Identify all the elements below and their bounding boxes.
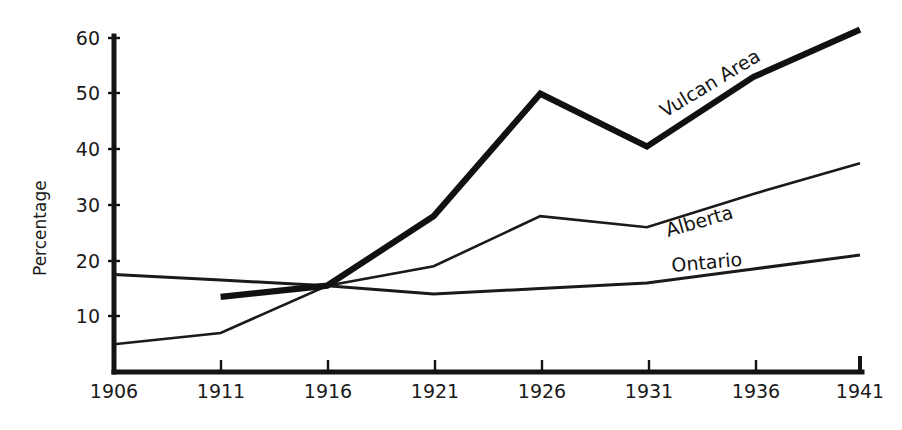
x-tick-label-1936: 1936 — [732, 380, 780, 402]
y-tick-label-40: 40 — [76, 138, 100, 160]
y-axis-title: Percentage — [30, 180, 50, 276]
y-tick-label-50: 50 — [76, 82, 100, 104]
x-tick-label-1941: 1941 — [836, 380, 884, 402]
series-label-alberta: Alberta — [663, 201, 735, 241]
chart-canvas: 60 50 40 30 20 10 Percentage 1906 1911 1… — [0, 0, 902, 430]
series-line-ontario — [114, 255, 860, 294]
x-tick-label-1906: 1906 — [90, 380, 138, 402]
x-tick-label-1911: 1911 — [197, 380, 245, 402]
x-tick-label-1921: 1921 — [411, 380, 459, 402]
series-line-vulcan-area — [221, 30, 860, 297]
x-tick-label-1931: 1931 — [625, 380, 673, 402]
x-tick-label-1916: 1916 — [304, 380, 352, 402]
x-tick-label-1926: 1926 — [518, 380, 566, 402]
y-tick-label-30: 30 — [76, 194, 100, 216]
line-chart: 60 50 40 30 20 10 Percentage 1906 1911 1… — [0, 0, 902, 430]
y-tick-label-10: 10 — [76, 305, 100, 327]
y-tick-label-20: 20 — [76, 250, 100, 272]
series-line-alberta — [114, 163, 860, 344]
y-tick-label-60: 60 — [76, 27, 100, 49]
